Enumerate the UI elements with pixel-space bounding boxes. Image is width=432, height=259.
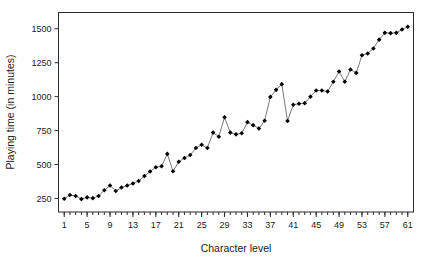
data-point-marker: [205, 146, 210, 151]
data-point-marker: [394, 31, 399, 36]
data-point-marker: [222, 115, 227, 120]
x-tick-label: 13: [128, 220, 138, 230]
data-point-marker: [348, 67, 353, 72]
x-tick-label: 57: [380, 220, 390, 230]
y-tick-label: 1500: [31, 24, 51, 34]
x-tick-label: 29: [220, 220, 230, 230]
y-axis-title: Playing time (in minutes): [4, 55, 16, 170]
data-point-marker: [388, 31, 393, 36]
x-tick-label: 9: [108, 220, 113, 230]
x-axis-tick-labels: 15913172125293337414549535761: [62, 220, 413, 230]
data-point-marker: [85, 195, 90, 200]
data-point-marker: [251, 123, 256, 128]
data-point-marker: [176, 159, 181, 164]
y-axis-ticks: [55, 29, 59, 199]
data-point-marker: [68, 193, 73, 198]
data-point-marker: [239, 131, 244, 136]
data-point-marker: [234, 132, 239, 137]
data-point-marker: [325, 89, 330, 94]
x-tick-label: 21: [174, 220, 184, 230]
data-point-marker: [291, 102, 296, 107]
x-tick-label: 5: [85, 220, 90, 230]
data-point-marker: [165, 152, 170, 157]
data-point-marker: [159, 164, 164, 169]
data-point-marker: [245, 120, 250, 125]
data-point-marker: [125, 183, 130, 188]
x-tick-label: 37: [265, 220, 275, 230]
x-tick-label: 1: [62, 220, 67, 230]
x-tick-label: 61: [403, 220, 413, 230]
data-point-marker: [228, 130, 233, 135]
data-point-marker: [182, 156, 187, 161]
data-point-marker: [131, 181, 136, 186]
x-tick-label: 17: [151, 220, 161, 230]
x-tick-label: 41: [288, 220, 298, 230]
data-point-marker: [320, 88, 325, 93]
x-tick-label: 53: [357, 220, 367, 230]
data-point-marker: [171, 169, 176, 174]
data-point-marker: [360, 53, 365, 58]
data-point-marker: [119, 185, 124, 190]
data-point-marker: [342, 79, 347, 84]
data-point-marker: [331, 79, 336, 84]
x-tick-label: 33: [242, 220, 252, 230]
data-point-marker: [400, 27, 405, 32]
plot-frame: [59, 13, 414, 213]
data-point-marker: [354, 71, 359, 76]
y-tick-label: 750: [36, 126, 51, 136]
y-tick-label: 1000: [31, 92, 51, 102]
y-tick-label: 500: [36, 160, 51, 170]
series-markers-playing-time: [62, 24, 410, 201]
data-point-marker: [285, 119, 290, 124]
data-point-marker: [62, 196, 67, 201]
series-line-playing-time: [64, 27, 408, 199]
data-point-marker: [73, 194, 78, 199]
data-point-marker: [91, 196, 96, 201]
data-point-marker: [337, 69, 342, 74]
y-tick-label: 250: [36, 194, 51, 204]
y-tick-label: 1250: [31, 58, 51, 68]
x-axis-minor-ticks: [64, 212, 408, 215]
data-point-marker: [79, 197, 84, 202]
data-point-marker: [405, 24, 410, 29]
x-tick-label: 49: [334, 220, 344, 230]
data-point-marker: [199, 143, 204, 148]
y-axis-tick-labels: 250500750100012501500: [31, 24, 51, 204]
chart-container: 250500750100012501500 159131721252933374…: [0, 0, 432, 259]
x-tick-label: 45: [311, 220, 321, 230]
playing-time-line-chart: 250500750100012501500 159131721252933374…: [0, 0, 432, 259]
data-point-marker: [297, 101, 302, 106]
x-axis-title: Character level: [201, 242, 272, 254]
x-tick-label: 25: [197, 220, 207, 230]
